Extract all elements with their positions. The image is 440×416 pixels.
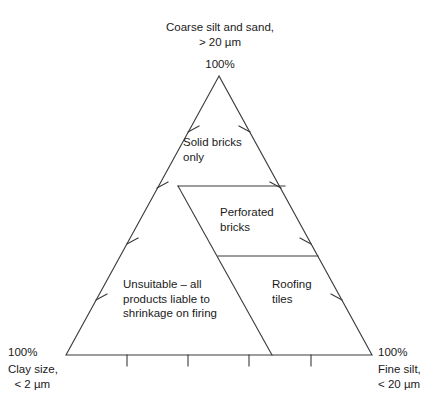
ticks-bottom-edge <box>127 355 311 366</box>
region-label-solid-bricks: Solid bricks only <box>183 135 293 164</box>
region-label-unsuitable: Unsuitable – all products liable to shri… <box>123 277 253 321</box>
left-corner-axis-label: Clay size, < 2 µm <box>8 362 94 391</box>
ternary-diagram: Coarse silt and sand, > 20 µm 100% 100% … <box>0 0 440 416</box>
apex-axis-label: Coarse silt and sand, > 20 µm <box>120 20 320 49</box>
left-corner-value: 100% <box>8 345 64 360</box>
apex-axis-value: 100% <box>120 57 320 72</box>
region-label-roofing-tiles: Roofing tiles <box>272 277 352 306</box>
right-corner-value: 100% <box>378 345 434 360</box>
region-label-perforated-bricks: Perforated bricks <box>220 205 330 234</box>
right-corner-axis-label: Fine silt, < 20 µm <box>378 362 438 391</box>
